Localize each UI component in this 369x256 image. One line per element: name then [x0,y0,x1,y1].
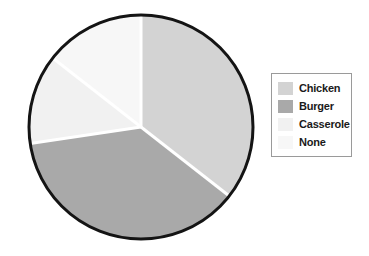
chart-legend: Chicken Burger Casserole None [271,73,352,157]
legend-item-none[interactable]: None [278,134,346,151]
pie-chart-figure: Chicken Burger Casserole None [0,0,369,256]
pie-chart-svg [26,8,256,248]
legend-swatch-burger [278,100,293,113]
legend-swatch-chicken [278,82,293,95]
legend-swatch-casserole [278,118,293,131]
legend-item-casserole[interactable]: Casserole [278,116,346,133]
legend-item-burger[interactable]: Burger [278,98,346,115]
legend-swatch-none [278,136,293,149]
legend-label-chicken: Chicken [299,83,340,94]
legend-label-none: None [299,137,326,148]
legend-label-casserole: Casserole [299,119,350,130]
legend-label-burger: Burger [299,101,334,112]
legend-item-chicken[interactable]: Chicken [278,80,346,97]
